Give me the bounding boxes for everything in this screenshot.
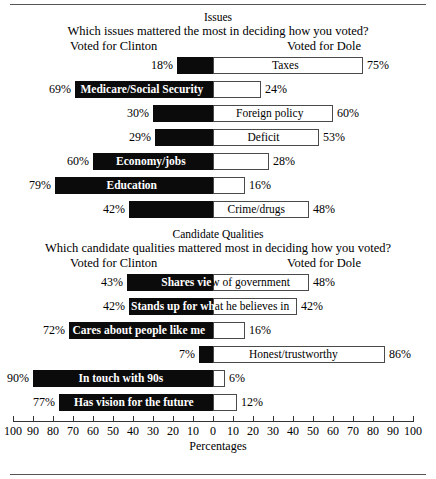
bar-segment-dole [213, 105, 333, 122]
voted-headings-issues: Voted for Clinton Voted for Dole [0, 39, 436, 54]
voted-for-dole-heading: Voted for Dole [287, 39, 361, 54]
axis-tick-label: 60 [87, 424, 99, 439]
bar-value-clinton: 43% [101, 274, 127, 291]
axis-tick [233, 416, 234, 422]
bar-row: 42%48%Crime/drugs [0, 198, 436, 222]
bar-value-clinton: 90% [7, 370, 33, 387]
bar-row: 42%42%Stands up for what he believes in [0, 295, 436, 319]
bar-row: 29%53%Deficit [0, 126, 436, 150]
axis-tick-label: 70 [347, 424, 359, 439]
bar-segment-dole [213, 394, 237, 411]
bar-segment-clinton [127, 274, 213, 291]
axis-tick [313, 416, 314, 422]
axis-tick-label: 10 [227, 424, 239, 439]
bar-segment-dole [213, 322, 245, 339]
axis-tick [393, 416, 394, 422]
bar-segment-clinton [93, 153, 213, 170]
axis-tick [213, 416, 214, 422]
bar-segment-dole [213, 81, 261, 98]
axis-tick [73, 416, 74, 422]
bar-segment-dole [213, 298, 297, 315]
axis-tick [333, 416, 334, 422]
section-title-issues: Issues [0, 10, 436, 24]
bar-value-dole: 86% [385, 346, 411, 363]
voted-headings-qualities: Voted for Clinton Voted for Dole [0, 256, 436, 271]
axis-tick [53, 416, 54, 422]
bottom-rule [10, 474, 426, 475]
axis-tick-label: 40 [127, 424, 139, 439]
bar-row: 90%6%In touch with 90s [0, 367, 436, 391]
bar-row: 69%24%Medicare/Social Security [0, 78, 436, 102]
bar-value-clinton: 77% [33, 394, 59, 411]
axis-tick [353, 416, 354, 422]
bar-chart-issues: 18%75%Taxes69%24%Medicare/Social Securit… [0, 54, 436, 222]
bar-value-dole: 12% [237, 394, 263, 411]
axis-tick [93, 416, 94, 422]
bar-value-dole: 6% [225, 370, 245, 387]
axis-tick [33, 416, 34, 422]
bar-value-dole: 16% [245, 322, 271, 339]
bar-segment-dole [213, 274, 309, 291]
axis-tick [273, 416, 274, 422]
bar-segment-dole [213, 201, 309, 218]
axis-tick-label: 90 [27, 424, 39, 439]
section-question-issues: Which issues mattered the most in decidi… [0, 24, 436, 39]
axis-tick-label: 80 [367, 424, 379, 439]
bar-value-clinton: 69% [49, 81, 75, 98]
bar-value-clinton: 42% [103, 201, 129, 218]
bar-segment-dole [213, 177, 245, 194]
axis-tick [133, 416, 134, 422]
bar-segment-clinton [129, 201, 213, 218]
axis-tick-label: 20 [167, 424, 179, 439]
bar-value-clinton: 60% [67, 153, 93, 170]
bar-value-clinton: 29% [129, 129, 155, 146]
bar-segment-clinton [59, 394, 213, 411]
axis-tick [413, 416, 414, 422]
bar-value-clinton: 7% [179, 346, 199, 363]
bar-segment-clinton [55, 177, 213, 194]
bar-value-dole: 42% [297, 298, 323, 315]
axis-tick-label: 30 [267, 424, 279, 439]
axis-tick [153, 416, 154, 422]
bar-value-clinton: 79% [29, 177, 55, 194]
axis-caption: Percentages [0, 439, 436, 454]
axis-tick-label: 10 [187, 424, 199, 439]
bar-row: 60%28%Economy/jobs [0, 150, 436, 174]
bar-segment-clinton [33, 370, 213, 387]
bar-value-dole: 48% [309, 201, 335, 218]
voted-for-clinton-heading: Voted for Clinton [70, 39, 157, 54]
bar-segment-clinton [155, 129, 213, 146]
bar-value-clinton: 42% [103, 298, 129, 315]
bar-segment-dole [213, 57, 363, 74]
bar-segment-dole [213, 346, 385, 363]
bar-row: 43%48%Shares view of government [0, 271, 436, 295]
section-candidate-qualities: Candidate Qualities Which candidate qual… [0, 227, 436, 415]
axis-tick-label: 100 [404, 424, 422, 439]
axis-tick-label: 20 [247, 424, 259, 439]
bar-value-dole: 24% [261, 81, 287, 98]
bar-segment-dole [213, 370, 225, 387]
bar-segment-clinton [75, 81, 213, 98]
axis-tick-label: 50 [107, 424, 119, 439]
bar-value-clinton: 18% [151, 57, 177, 74]
axis-tick [193, 416, 194, 422]
bar-segment-clinton [177, 57, 213, 74]
bar-segment-clinton [69, 322, 213, 339]
bar-value-dole: 53% [319, 129, 345, 146]
bar-segment-clinton [129, 298, 213, 315]
bar-value-dole: 60% [333, 105, 359, 122]
section-title-qualities: Candidate Qualities [0, 227, 436, 241]
bar-row: 79%16%Education [0, 174, 436, 198]
bar-segment-clinton [199, 346, 213, 363]
bar-segment-dole [213, 153, 269, 170]
bar-row: 30%60%Foreign policy [0, 102, 436, 126]
axis-tick-label: 0 [210, 424, 216, 439]
axis-tick-label: 90 [387, 424, 399, 439]
bar-value-dole: 48% [309, 274, 335, 291]
voted-for-dole-heading-2: Voted for Dole [287, 256, 361, 271]
axis-tick [173, 416, 174, 422]
axis-tick-label: 60 [327, 424, 339, 439]
axis-tick [13, 416, 14, 422]
bar-row: 77%12%Has vision for the future [0, 391, 436, 415]
axis-tick [373, 416, 374, 422]
